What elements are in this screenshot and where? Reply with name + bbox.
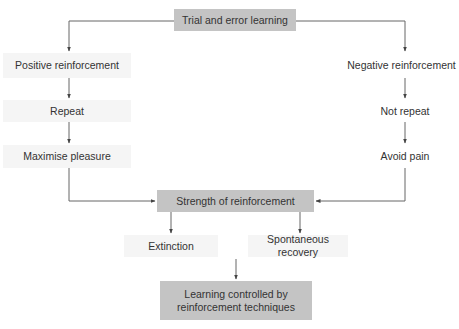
node-label-line1: Learning controlled by bbox=[184, 288, 287, 301]
node-label: Spontaneous recovery bbox=[248, 233, 348, 259]
node-maximise-pleasure: Maximise pleasure bbox=[3, 145, 131, 168]
edge-root-negative bbox=[296, 21, 405, 51]
edge-pain-strength bbox=[316, 168, 405, 201]
node-strength-of-reinforcement: Strength of reinforcement bbox=[157, 190, 314, 212]
node-not-repeat: Not repeat bbox=[360, 100, 450, 122]
node-positive-reinforcement: Positive reinforcement bbox=[3, 53, 131, 78]
node-label: Extinction bbox=[148, 240, 194, 253]
node-label: Not repeat bbox=[380, 105, 429, 118]
node-avoid-pain: Avoid pain bbox=[360, 145, 450, 168]
node-trial-and-error: Trial and error learning bbox=[174, 9, 296, 31]
node-label: Maximise pleasure bbox=[23, 150, 111, 163]
node-label: Trial and error learning bbox=[182, 14, 288, 27]
node-spontaneous-recovery: Spontaneous recovery bbox=[248, 235, 348, 257]
node-label: Strength of reinforcement bbox=[176, 195, 294, 208]
node-extinction: Extinction bbox=[124, 235, 218, 257]
edge-root-positive bbox=[69, 21, 174, 51]
node-label: Repeat bbox=[50, 105, 84, 118]
edge-pleasure-strength bbox=[69, 168, 155, 201]
node-label: Positive reinforcement bbox=[15, 59, 119, 72]
node-label: Avoid pain bbox=[381, 150, 430, 163]
node-label-line2: reinforcement techniques bbox=[177, 301, 295, 314]
node-repeat: Repeat bbox=[3, 100, 131, 122]
node-learning-controlled: Learning controlled by reinforcement tec… bbox=[160, 281, 312, 320]
node-label: Negative reinforcement bbox=[347, 59, 456, 72]
node-negative-reinforcement: Negative reinforcement bbox=[344, 53, 459, 78]
